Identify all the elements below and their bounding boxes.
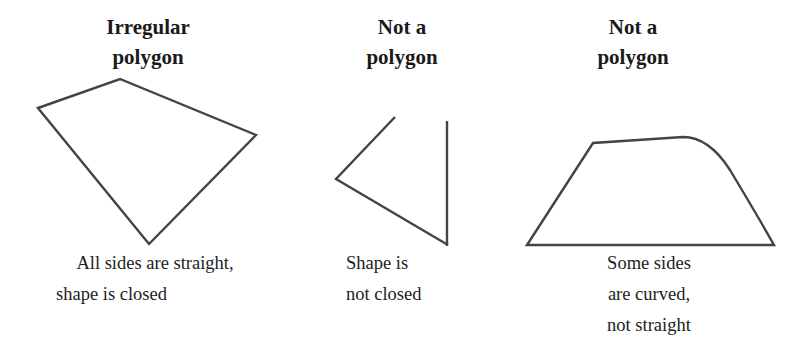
panel-2-caption-line1: Shape is (336, 248, 446, 279)
panel-3-caption: Some sides are curved, not straight (584, 248, 714, 341)
curved-shape (527, 137, 774, 245)
open-shape (336, 117, 448, 246)
panel-2-caption-line2: not closed (336, 279, 446, 310)
irregular-polygon-shape (38, 79, 256, 244)
panel-3-caption-line1: Some sides (584, 248, 714, 279)
panel-3-caption-line3: not straight (584, 310, 714, 341)
panel-2-caption: Shape is not closed (336, 248, 446, 310)
panel-1-caption-line1: All sides are straight, (40, 248, 270, 279)
open-shape-angled-sides (336, 117, 448, 245)
panel-1-caption: All sides are straight, shape is closed (40, 248, 270, 310)
panel-3-caption-line2: are curved, (584, 279, 714, 310)
panel-1-caption-line2: shape is closed (40, 279, 270, 310)
